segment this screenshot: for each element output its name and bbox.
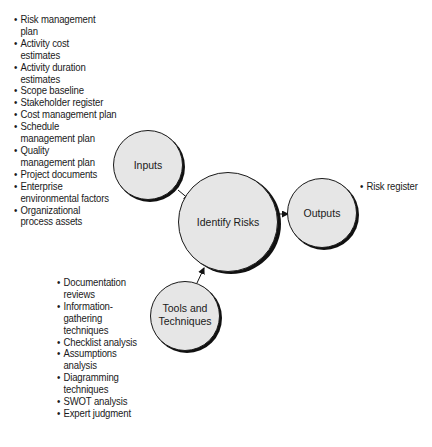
svg-text:Inputs: Inputs: [134, 159, 163, 171]
process-diagram: Inputs Identify Risks Outputs Tools and …: [0, 0, 432, 447]
identify-risks-node: Identify Risks: [179, 173, 282, 275]
outputs-node: Outputs: [288, 179, 360, 251]
inputs-node: Inputs: [114, 131, 186, 203]
arrow-tools-to-process: [197, 268, 204, 283]
svg-text:Identify Risks: Identify Risks: [197, 216, 259, 228]
tools-techniques-node: Tools and Techniques: [151, 282, 223, 354]
svg-text:Techniques: Techniques: [158, 315, 211, 327]
svg-text:Outputs: Outputs: [304, 207, 341, 219]
svg-text:Tools and: Tools and: [163, 302, 208, 314]
